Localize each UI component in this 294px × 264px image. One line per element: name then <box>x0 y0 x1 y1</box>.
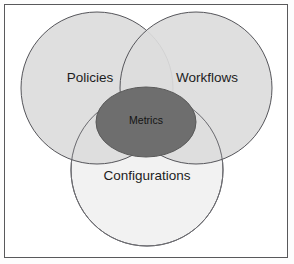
venn-diagram-root: Policies Workflows Configurations Metric… <box>0 0 294 264</box>
venn-label-metrics: Metrics <box>129 114 163 126</box>
venn-label-configurations: Configurations <box>103 168 190 183</box>
venn-label-policies: Policies <box>67 70 114 85</box>
venn-label-workflows: Workflows <box>176 70 238 85</box>
venn-diagram-canvas: Policies Workflows Configurations Metric… <box>0 0 294 264</box>
